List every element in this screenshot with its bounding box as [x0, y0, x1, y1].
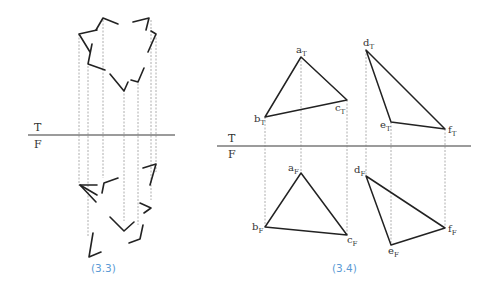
- label-b-top: bT: [254, 113, 265, 127]
- top-view-fragments: [79, 18, 156, 91]
- label-f-front: fF: [448, 223, 457, 237]
- plane-label-top: T: [228, 132, 236, 145]
- label-d-top: dT: [363, 37, 374, 51]
- label-c-top: cT: [335, 102, 346, 116]
- figure-3-3: T F (3.3): [28, 18, 175, 274]
- label-e-top: eT: [380, 119, 391, 133]
- triangle-abc-front: [265, 173, 347, 235]
- front-view-labels: aF bF cF dF eF fF: [252, 162, 457, 259]
- figure-3-4: T F aT bT cT dT eT fT aF bF cF dF eF fF …: [217, 37, 471, 274]
- plane-label-front: F: [34, 138, 42, 151]
- triangle-def-top: [366, 50, 445, 129]
- label-a-front: aF: [288, 162, 299, 176]
- label-d-front: dF: [354, 164, 365, 178]
- caption-3-3: (3.3): [91, 262, 116, 274]
- front-view-fragments: [80, 164, 156, 257]
- label-e-front: eF: [388, 245, 399, 259]
- top-view-labels: aT bT cT dT eT fT: [254, 37, 457, 138]
- projector-lines: [265, 50, 445, 245]
- label-c-front: cF: [347, 234, 358, 248]
- plane-label-top: T: [34, 121, 42, 134]
- triangle-def-front: [366, 176, 445, 245]
- label-f-top: fT: [448, 124, 457, 138]
- diagram-canvas: T F (3.3): [0, 0, 491, 294]
- label-a-top: aT: [296, 44, 307, 58]
- label-b-front: bF: [252, 221, 263, 235]
- caption-3-4: (3.4): [332, 262, 357, 274]
- plane-label-front: F: [228, 148, 236, 161]
